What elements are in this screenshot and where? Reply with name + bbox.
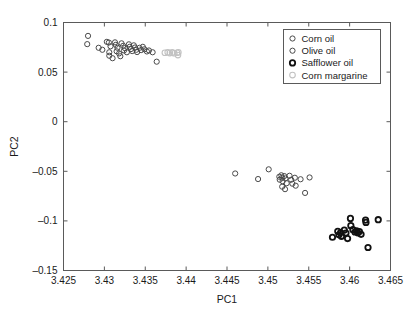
legend: Corn oilOlive oilSafflower oilCorn marga…	[284, 30, 381, 84]
data-point	[233, 171, 238, 176]
data-point	[85, 42, 90, 47]
legend-label-corn-oil: Corn oil	[302, 33, 335, 44]
series-corn-margarine	[162, 49, 181, 57]
y-tick-label: –0.1	[38, 215, 58, 226]
x-tick-label: 3.445	[214, 275, 239, 286]
legend-label-olive-oil: Olive oil	[302, 45, 336, 56]
data-point	[302, 190, 307, 195]
data-point	[255, 176, 260, 181]
data-point	[307, 175, 312, 180]
data-point	[298, 177, 303, 182]
x-tick-label: 3.425	[51, 275, 76, 286]
series-olive-oil	[233, 167, 313, 196]
data-point	[154, 59, 159, 64]
x-tick-label: 3.44	[176, 275, 196, 286]
y-tick-label: –0.05	[32, 166, 57, 177]
y-tick-label: –0.15	[32, 265, 57, 276]
data-point	[365, 245, 370, 250]
y-tick-label: 0.1	[44, 17, 58, 28]
series-corn-oil	[85, 33, 160, 64]
x-tick-label: 3.465	[378, 275, 403, 286]
y-axis-title: PC2	[8, 136, 20, 157]
data-point	[345, 236, 350, 241]
data-point	[330, 235, 335, 240]
data-point	[348, 216, 353, 221]
data-point	[376, 217, 381, 222]
legend-label-corn-margarine: Corn margarine	[302, 70, 368, 81]
x-tick-label: 3.45	[258, 275, 278, 286]
data-point	[266, 167, 271, 172]
y-tick-label: 0	[52, 116, 58, 127]
x-tick-label: 3.455	[296, 275, 321, 286]
y-tick-label: 0.05	[38, 67, 58, 78]
scatter-plot-figure: 3.4253.433.4353.443.4453.453.4553.463.46…	[0, 0, 410, 314]
x-tick-label: 3.43	[95, 275, 115, 286]
x-tick-label: 3.46	[340, 275, 360, 286]
plot-canvas: 3.4253.433.4353.443.4453.453.4553.463.46…	[0, 0, 410, 314]
x-tick-label: 3.435	[133, 275, 158, 286]
data-point	[85, 33, 90, 38]
legend-label-safflower-oil: Safflower oil	[302, 57, 354, 68]
series-safflower-oil	[330, 216, 381, 250]
x-axis-title: PC1	[217, 293, 238, 305]
